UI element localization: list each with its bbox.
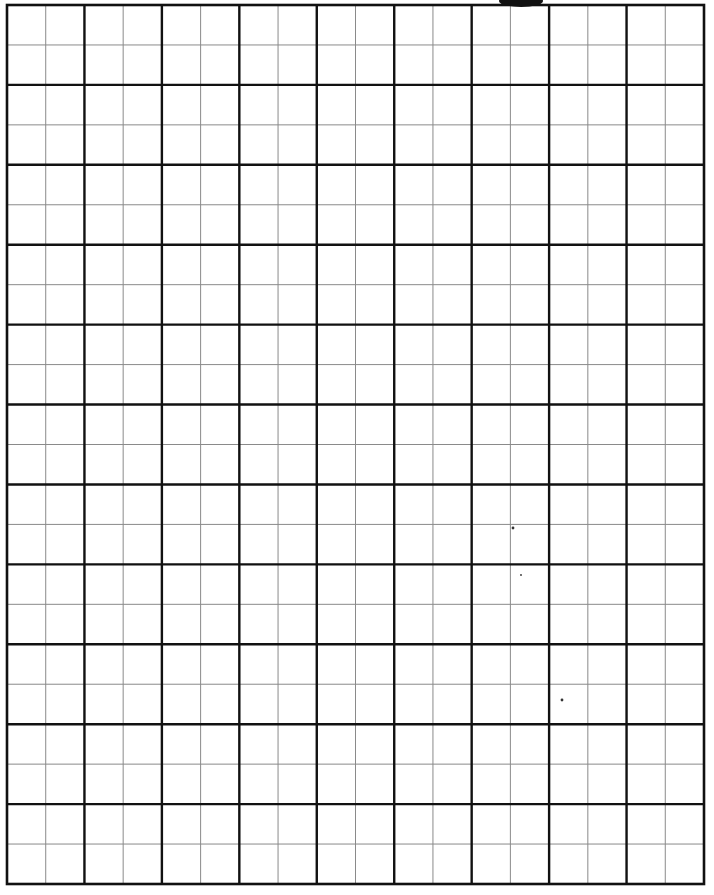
stray-dot-mark xyxy=(561,699,564,702)
stray-dot-mark xyxy=(520,574,522,576)
grid-canvas xyxy=(0,0,714,895)
minor-grid-lines xyxy=(7,5,704,884)
stray-dot-mark xyxy=(512,527,515,530)
graph-paper-page xyxy=(0,0,714,895)
